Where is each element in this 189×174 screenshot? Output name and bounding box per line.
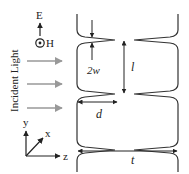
right-structure-profile: [134, 14, 178, 172]
length-label: l: [131, 60, 135, 74]
h-field-indicator: H: [36, 37, 54, 49]
depth-dimension: d: [78, 102, 117, 121]
length-dimension: l: [124, 41, 135, 93]
axis-x-label: x: [45, 127, 51, 139]
incident-light-arrows: [27, 61, 62, 108]
thickness-label: t: [131, 153, 135, 167]
h-field-label: H: [46, 37, 54, 49]
coordinate-axes: y x z: [23, 116, 68, 162]
thickness-dimension: t: [78, 151, 177, 167]
depth-label: d: [96, 107, 103, 121]
left-structure-profile: [77, 14, 115, 172]
gap-label: 2w: [87, 64, 101, 76]
axis-z-label: z: [63, 150, 68, 162]
axis-y-label: y: [23, 116, 29, 128]
e-field-label: E: [36, 9, 43, 21]
incident-light-label: Incident Light: [8, 49, 20, 112]
gap-dimension: 2w: [87, 20, 101, 76]
diagram-canvas: 2w l d t E H Incident Light y x z: [0, 0, 189, 174]
e-field-indicator: E: [36, 9, 43, 36]
